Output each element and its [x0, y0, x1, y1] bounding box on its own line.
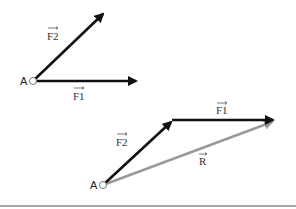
vector-diagram: A F2 F1 A F2 F1 R — [0, 0, 296, 209]
svg-text:R: R — [199, 155, 207, 167]
label-f1-top: F1 — [73, 87, 85, 103]
svg-text:F2: F2 — [116, 136, 128, 148]
svg-text:F2: F2 — [47, 30, 59, 42]
point-a-label: A — [90, 179, 98, 191]
point-a-label: A — [20, 75, 28, 87]
vector-f2-bottom — [103, 122, 171, 185]
vector-r — [103, 122, 272, 185]
label-r: R — [199, 153, 207, 168]
point-a-bottom — [100, 182, 107, 189]
svg-text:F1: F1 — [216, 104, 228, 116]
bottom-figure: A F2 F1 R — [90, 102, 273, 192]
top-figure: A F2 F1 — [20, 14, 136, 102]
vector-f2-top — [33, 14, 103, 81]
label-f2-bottom: F2 — [116, 133, 128, 149]
svg-text:F1: F1 — [73, 90, 85, 102]
label-f1-bottom: F1 — [216, 102, 228, 117]
point-a-top — [30, 78, 37, 85]
label-f2-top: F2 — [47, 27, 59, 43]
